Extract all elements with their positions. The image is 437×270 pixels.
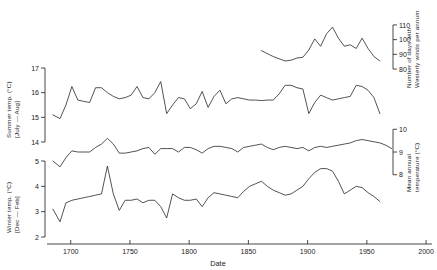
winds-axis-title-line1: Number of days with <box>405 27 412 88</box>
mean-annual-axis-tick-label: 10 <box>399 126 407 133</box>
winter-axis-tick-label: 4 <box>35 183 39 190</box>
winter-axis: 2345 <box>35 158 45 241</box>
winter-axis-title-line2: [Dec — Feb] <box>13 196 20 233</box>
x-axis-title: Date <box>210 259 225 268</box>
x-axis-tick-label: 1850 <box>241 248 257 255</box>
mean-annual-axis-title-line2: temperature (°C) <box>413 143 420 192</box>
winter-axis-title-line1: Winter temp. (°C) <box>5 182 12 233</box>
winter-axis-tick-label: 2 <box>35 234 39 241</box>
summer-axis-tick-label: 17 <box>31 65 39 72</box>
summer-axis-title-line1: Summer temp. (°C) <box>5 81 12 138</box>
series-line-mean-annual-temp <box>53 138 392 166</box>
x-axis-tick-label: 1700 <box>63 248 79 255</box>
x-axis-ticks: 1700175018001850190019502000 <box>63 240 434 255</box>
x-axis-tick-label: 1800 <box>181 248 197 255</box>
series-line-winter-temp <box>53 166 380 222</box>
panel-mean-annual-temp: 8910 Mean annual temperature (°C) <box>53 126 420 192</box>
x-axis-tick-label: 2000 <box>418 248 434 255</box>
summer-axis-tick-label: 15 <box>31 114 39 121</box>
panel-winter-temp: 2345 Winter temp. (°C) [Dec — Feb] <box>5 158 380 241</box>
series-line-westerly-winds <box>261 27 379 61</box>
mean-annual-axis-tick-label: 9 <box>399 149 403 156</box>
chart-canvas: 1700175018001850190019502000 Date 809010… <box>0 0 437 270</box>
mean-annual-axis-title-line1: Mean annual <box>405 154 412 192</box>
summer-axis-title-line2: [July — Aug] <box>13 101 20 138</box>
panel-westerly-winds: 8090100110 Number of days with Westerly … <box>261 10 420 88</box>
summer-axis-tick-label: 16 <box>31 89 39 96</box>
winter-axis-tick-label: 5 <box>35 158 39 165</box>
climate-time-series-figure: 1700175018001850190019502000 Date 809010… <box>0 0 437 270</box>
winter-axis-tick-label: 3 <box>35 208 39 215</box>
x-axis-tick-label: 1750 <box>122 248 138 255</box>
x-axis: 1700175018001850190019502000 Date <box>47 240 434 268</box>
mean-annual-axis-tick-label: 8 <box>399 171 403 178</box>
winds-axis-title-line2: Westerly winds per annum <box>413 10 420 88</box>
panel-summer-temp: 14151617 Summer temp. (°C) [July — Aug] <box>5 65 380 146</box>
summer-axis: 14151617 <box>31 65 45 146</box>
x-axis-tick-label: 1900 <box>300 248 316 255</box>
x-axis-tick-label: 1950 <box>359 248 375 255</box>
winds-axis-tick-label: 110 <box>399 22 410 29</box>
summer-axis-tick-label: 14 <box>31 139 39 146</box>
series-line-summer-temp <box>53 82 380 119</box>
